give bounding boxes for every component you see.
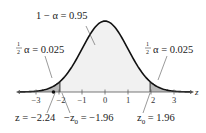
axis-label-z: z	[194, 87, 199, 97]
neg-critical-label: −z0 = −1.96	[64, 112, 114, 126]
left-tail-leader	[45, 56, 52, 78]
right-tail-leader	[158, 56, 167, 80]
tick-label: 2	[151, 95, 155, 105]
right-tail-annotation: 1 2 α = 0.025	[145, 41, 193, 55]
pos-critical-label: z0 = 1.96	[137, 112, 175, 126]
center-area-label: 1 − α = 0.95	[36, 10, 87, 21]
right-tail-label: α = 0.025	[153, 44, 193, 55]
pos-crit-leader	[143, 93, 150, 113]
x-axis-arrow	[190, 90, 194, 94]
tick-label: −2	[56, 95, 65, 105]
left-frac-den: 2	[17, 49, 20, 55]
tick-label: 3	[172, 95, 176, 105]
left-frac-num: 1	[17, 41, 20, 47]
test-statistic-point	[52, 90, 56, 94]
left-tail-label: α = 0.025	[24, 44, 64, 55]
normal-distribution-chart: −3−2−10123 1 − α = 0.95 1 2 α = 0.025 1 …	[0, 0, 206, 133]
test-stat-leader	[47, 93, 55, 113]
tick-label: −3	[31, 95, 40, 105]
tick-label: 0	[103, 95, 107, 105]
tick-label: 1	[126, 95, 130, 105]
test-statistic-label: z = −2.24	[15, 112, 56, 123]
tick-label: −1	[77, 95, 86, 105]
x-axis-arrow-left	[16, 90, 20, 94]
right-frac-num: 1	[146, 41, 149, 47]
region-center	[60, 21, 150, 92]
right-frac-den: 2	[146, 49, 149, 55]
left-tail-annotation: 1 2 α = 0.025	[16, 41, 64, 55]
